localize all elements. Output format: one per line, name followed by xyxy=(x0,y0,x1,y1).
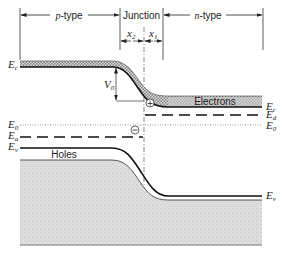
x1-label: x1 xyxy=(148,27,157,41)
negative-ion-icon xyxy=(131,126,139,134)
electrons-label: Electrons xyxy=(194,96,236,107)
n-type-label: n-type xyxy=(194,10,222,21)
label-ev-right: Ev xyxy=(265,189,277,203)
x2-label: x2 xyxy=(126,27,136,41)
pn-junction-diagram: p-type Junction n-type x2 x1 Electrons V… xyxy=(0,0,286,255)
p-type-label: p-type xyxy=(54,10,83,21)
label-ec-left: Ec xyxy=(7,58,19,72)
svg-text:+: + xyxy=(147,99,154,108)
positive-ion-icon: + xyxy=(146,99,154,108)
junction-label: Junction xyxy=(123,10,160,21)
right-level-labels: Ec Ed E0 Ev xyxy=(265,100,277,203)
left-level-labels: Ec E0 Ea Ev xyxy=(7,58,19,154)
v0-label: V0 xyxy=(104,78,115,92)
holes-label: Holes xyxy=(51,149,77,160)
